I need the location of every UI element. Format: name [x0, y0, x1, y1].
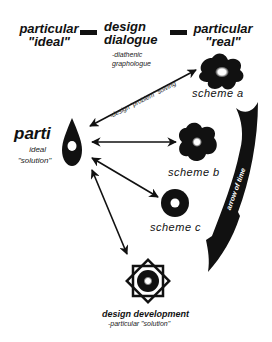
design-development-star-icon	[127, 260, 169, 302]
scheme-b-shape-icon	[179, 123, 217, 161]
scheme-a-shape-icon	[199, 54, 243, 90]
header-dash-right	[170, 30, 187, 35]
header-center-sub: -diathenic graphologue	[112, 50, 151, 68]
arrow-parti-development	[92, 170, 127, 254]
header-particular-real: particular "real"	[192, 22, 254, 48]
scheme-c-shape-icon	[161, 189, 189, 217]
header-design-dialogue: design dialogue	[104, 20, 164, 46]
parti-drop-icon	[62, 118, 82, 166]
header-left-line2: "ideal"	[18, 35, 80, 48]
scheme-b-label: scheme b	[168, 166, 220, 178]
scheme-a-label: scheme a	[192, 87, 244, 99]
header-center-sub1: -diathenic	[112, 50, 151, 59]
header-right-line2: "real"	[192, 35, 254, 48]
header-center-sub2: graphologue	[112, 59, 151, 68]
scheme-c-label: scheme c	[150, 221, 201, 233]
design-development-sub: -particular "solution"	[108, 319, 170, 328]
design-development-title: design development	[102, 309, 189, 319]
header-particular-ideal: particular "ideal"	[18, 22, 80, 48]
header-center-line2: dialogue	[104, 33, 164, 46]
parti-sub2: "solution"	[18, 155, 51, 166]
parti-title: parti	[14, 124, 51, 144]
header-dash-left	[80, 30, 97, 35]
arrow-parti-scheme-c	[92, 158, 158, 197]
parti-sub: ideal "solution"	[24, 144, 51, 166]
parti-sub1: ideal	[24, 144, 51, 155]
